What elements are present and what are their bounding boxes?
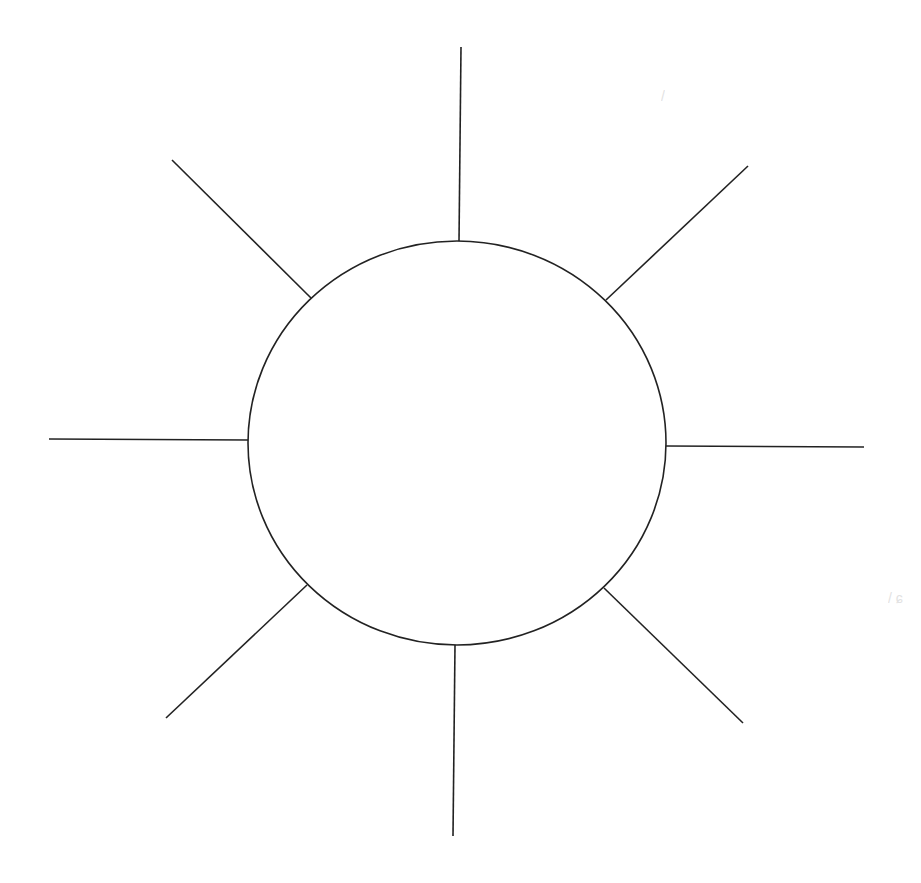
spoke-lines [49,47,864,836]
spoke-bottom [453,645,455,836]
sun-diagram [0,0,921,883]
scan-artifact-mark: / ɕ [888,590,903,606]
scan-artifact-mark: / [661,88,665,104]
spoke-top-right [606,166,748,300]
spoke-top-left [172,160,311,298]
spoke-bottom-left [166,585,307,718]
spoke-top [459,47,461,241]
spoke-right [666,446,864,447]
spoke-left [49,439,248,440]
spoke-bottom-right [604,588,743,723]
center-circle [248,241,666,645]
